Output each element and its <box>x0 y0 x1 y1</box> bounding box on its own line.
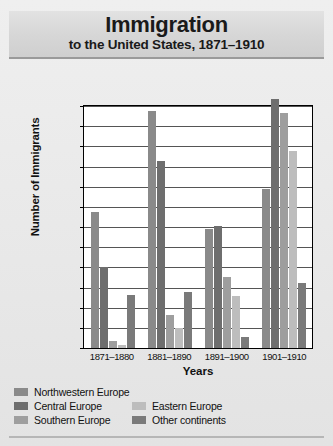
bar <box>271 99 279 348</box>
chart-title-band: Immigration to the United States, 1871–1… <box>9 11 324 59</box>
x-axis-ticks: 1871–18801881–18901891–19001901–1910 <box>83 351 313 365</box>
page-title: Immigration <box>9 11 324 37</box>
bar <box>109 341 117 348</box>
legend-item: Other continents <box>132 413 292 427</box>
bar <box>118 345 126 348</box>
legend-item <box>132 385 292 399</box>
legend-item: Central Europe <box>14 399 132 413</box>
chart-page: Immigration to the United States, 1871–1… <box>0 0 333 446</box>
bar <box>262 189 270 348</box>
bar <box>289 151 297 348</box>
bar <box>241 337 249 348</box>
legend-swatch <box>132 416 146 424</box>
legend-swatch <box>14 402 28 410</box>
bar-group <box>198 106 255 348</box>
plot-area: 2,400,0002,200,0002,000,0001,800,0001,60… <box>83 105 313 349</box>
bar-group <box>141 106 198 348</box>
bar-groups <box>84 106 312 348</box>
legend-swatch <box>132 402 146 410</box>
bar <box>280 113 288 348</box>
y-axis-label: Number of Immigrants <box>29 107 41 247</box>
legend-label: Eastern Europe <box>152 400 222 412</box>
legend-label: Central Europe <box>34 400 102 412</box>
legend-item: Northwestern Europe <box>14 385 132 399</box>
legend-label: Southern Europe <box>34 414 110 426</box>
y-tick-mark <box>80 348 84 349</box>
footer-divider <box>9 436 324 438</box>
x-tick-label: 1881–1890 <box>141 351 199 365</box>
bar <box>214 226 222 348</box>
legend-item: Southern Europe <box>14 413 132 427</box>
bar <box>223 277 231 348</box>
bar <box>175 328 183 348</box>
x-tick-label: 1891–1900 <box>198 351 256 365</box>
page-subtitle: to the United States, 1871–1910 <box>9 37 324 53</box>
bar-group <box>84 106 141 348</box>
bar <box>184 292 192 348</box>
legend-swatch <box>14 416 28 424</box>
legend-swatch <box>14 388 28 396</box>
legend-label: Northwestern Europe <box>34 386 129 398</box>
bar <box>232 296 240 348</box>
bar <box>91 212 99 348</box>
legend-item: Eastern Europe <box>132 399 292 413</box>
bar <box>298 283 306 348</box>
chart-area: Number of Immigrants 2,400,0002,200,0002… <box>9 66 324 381</box>
x-axis-label: Years <box>83 365 313 377</box>
x-tick-label: 1871–1880 <box>83 351 141 365</box>
bar <box>166 315 174 348</box>
bar <box>100 267 108 348</box>
bar <box>148 111 156 348</box>
bar-group <box>255 106 312 348</box>
bar <box>127 295 135 348</box>
bar <box>157 161 165 348</box>
x-tick-label: 1901–1910 <box>256 351 314 365</box>
legend-label: Other continents <box>152 414 226 426</box>
chart-legend: Northwestern Europe Central EuropeEaster… <box>14 385 319 429</box>
bar <box>205 229 213 348</box>
